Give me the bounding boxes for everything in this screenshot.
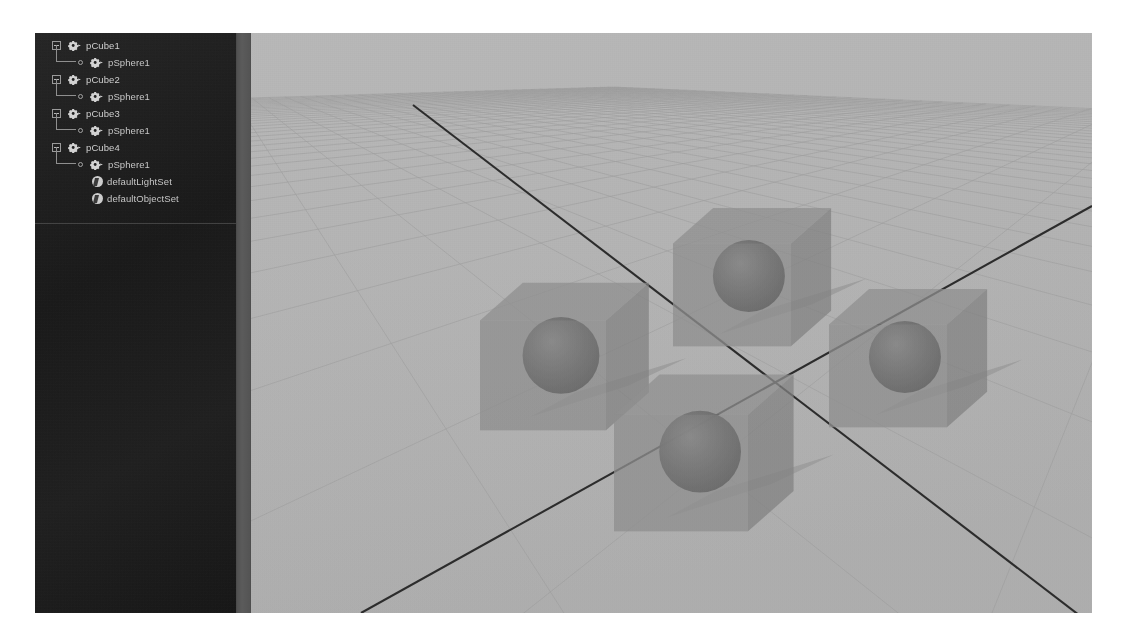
cube-object-pcube3[interactable]	[614, 375, 794, 532]
outliner-row-label: pSphere1	[108, 88, 150, 105]
tree-node-dot[interactable]	[78, 162, 83, 167]
tree-connector	[56, 113, 76, 130]
outliner-row-defaultlightset-8[interactable]: defaultLightSet	[35, 173, 236, 190]
outliner-row-label: pSphere1	[108, 122, 150, 139]
outliner-row-label: pCube2	[86, 71, 120, 88]
tree-node-dot[interactable]	[78, 128, 83, 133]
maya-application-window: pCube1pSphere1pCube2pSphere1pCube3pSpher…	[0, 0, 1127, 640]
viewport-scene	[251, 33, 1092, 613]
outliner-row-label: pCube4	[86, 139, 120, 156]
shape-node-icon	[90, 159, 102, 170]
outliner-row-defaultobjectset-9[interactable]: defaultObjectSet	[35, 190, 236, 207]
outliner-row-label: pCube3	[86, 105, 120, 122]
tree-node-dot[interactable]	[78, 60, 83, 65]
outliner-row-label: pSphere1	[108, 156, 150, 173]
outliner-row-psphere1-5[interactable]: pSphere1	[35, 122, 236, 139]
tree-connector	[56, 45, 76, 62]
perspective-viewport[interactable]	[251, 33, 1092, 613]
cube-glass-overlay	[614, 415, 748, 532]
tree-node-dot[interactable]	[78, 94, 83, 99]
set-node-icon	[92, 193, 103, 204]
outliner-row-psphere1-1[interactable]: pSphere1	[35, 54, 236, 71]
tree-connector	[56, 147, 76, 164]
cube-glass-overlay	[673, 244, 791, 347]
scrollbar-thumb[interactable]	[237, 33, 250, 613]
outliner-scrollbar[interactable]	[236, 33, 251, 613]
panel-divider	[35, 223, 236, 224]
shape-node-icon	[90, 91, 102, 102]
outliner-panel[interactable]: pCube1pSphere1pCube2pSphere1pCube3pSpher…	[35, 33, 236, 613]
outliner-row-psphere1-3[interactable]: pSphere1	[35, 88, 236, 105]
outliner-row-label: defaultObjectSet	[107, 190, 179, 207]
outliner-row-label: defaultLightSet	[107, 173, 172, 190]
cube-object-pcube2[interactable]	[673, 208, 831, 346]
outliner-row-label: pSphere1	[108, 54, 150, 71]
cube-object-pcube4[interactable]	[829, 289, 987, 427]
outliner-tree[interactable]: pCube1pSphere1pCube2pSphere1pCube3pSpher…	[35, 37, 236, 207]
outliner-row-label: pCube1	[86, 37, 120, 54]
shape-node-icon	[90, 125, 102, 136]
tree-connector	[56, 79, 76, 96]
outliner-row-psphere1-7[interactable]: pSphere1	[35, 156, 236, 173]
shape-node-icon	[90, 57, 102, 68]
cube-glass-overlay	[480, 321, 606, 431]
set-node-icon	[92, 176, 103, 187]
cube-glass-overlay	[829, 325, 947, 428]
